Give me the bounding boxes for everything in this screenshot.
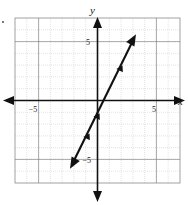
graph-canvas: y x −5 5 5 −5	[0, 0, 188, 205]
x-tick-label-neg5: −5	[29, 105, 38, 114]
y-axis	[93, 17, 102, 202]
y-axis-top-arrowhead	[93, 17, 102, 28]
x-tick-label-5: 5	[152, 105, 156, 114]
line-upper-arrowhead	[126, 34, 136, 46]
x-axis-left-arrowhead	[3, 96, 14, 105]
x-axis-label: x	[177, 95, 183, 107]
line-segment	[75, 44, 132, 160]
y-axis-bottom-arrowhead	[93, 191, 102, 202]
scan-speck	[2, 21, 4, 23]
x-axis	[3, 96, 185, 105]
coordinate-plane-figure: y x −5 5 5 −5	[0, 0, 188, 205]
line-lower-arrowhead	[70, 157, 80, 169]
y-tick-label-neg5: −5	[82, 156, 91, 165]
y-tick-label-5: 5	[86, 38, 90, 47]
plotted-line-series	[70, 34, 136, 168]
y-axis-label: y	[89, 4, 95, 16]
